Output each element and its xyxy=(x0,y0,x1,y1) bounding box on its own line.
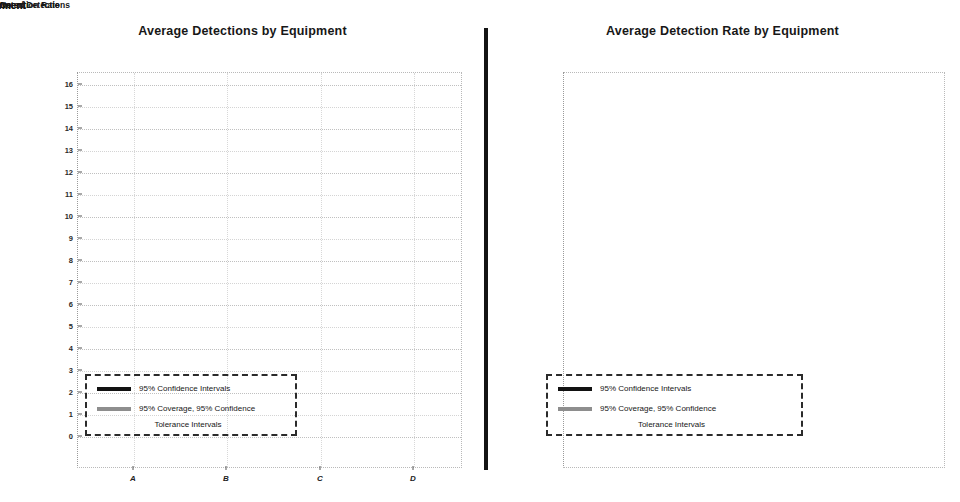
gridline-x xyxy=(321,73,322,467)
chart-title-right: Average Detection Rate by Equipment xyxy=(485,24,960,38)
legend-left: 95% Confidence Intervals 95% Coverage, 9… xyxy=(85,374,297,436)
legend-label-tolerance-line2: Tolerance Intervals xyxy=(87,420,289,429)
y-tick-label: 8 xyxy=(69,256,73,265)
legend-label-tolerance: 95% Coverage, 95% Confidence xyxy=(600,404,716,414)
x-tick-mark xyxy=(226,466,227,470)
y-tick-mark xyxy=(78,282,82,283)
y-tick-mark xyxy=(78,304,82,305)
legend-right: 95% Confidence Intervals 95% Coverage, 9… xyxy=(546,374,803,436)
gridline-y xyxy=(78,151,461,152)
gridline-y xyxy=(78,349,461,350)
y-tick-label: 15 xyxy=(65,102,73,111)
legend-label-tolerance: 95% Coverage, 95% Confidence xyxy=(139,404,255,414)
y-tick-label: 3 xyxy=(69,366,73,375)
y-tick-label: 14 xyxy=(65,124,73,133)
y-tick-mark xyxy=(78,326,82,327)
y-tick-label: 11 xyxy=(65,190,73,199)
legend-entry-tolerance: 95% Coverage, 95% Confidence xyxy=(87,404,289,414)
y-tick-mark xyxy=(78,238,82,239)
gridline-y xyxy=(78,217,461,218)
y-tick-mark xyxy=(78,106,82,107)
gridline-y xyxy=(78,173,461,174)
y-tick-label: 6 xyxy=(69,300,73,309)
y-tick-label: 9 xyxy=(69,234,73,243)
x-tick-mark xyxy=(320,466,321,470)
x-tick-label-d: D xyxy=(410,474,416,483)
y-tick-label: 1 xyxy=(69,410,73,419)
y-tick-mark xyxy=(78,414,82,415)
y-tick-mark xyxy=(78,172,82,173)
y-tick-label: 7 xyxy=(69,278,73,287)
y-tick-label: 12 xyxy=(65,168,73,177)
gridline-y xyxy=(78,85,461,86)
x-axis-title-right: Equipment xyxy=(0,0,26,11)
gridline-y xyxy=(78,107,461,108)
legend-swatch-tolerance-icon xyxy=(558,407,592,411)
y-tick-mark xyxy=(78,260,82,261)
gridline-y xyxy=(78,129,461,130)
gridline-y xyxy=(78,371,461,372)
y-tick-mark xyxy=(78,194,82,195)
y-tick-label: 16 xyxy=(65,80,73,89)
legend-label-tolerance-line2: Tolerance Intervals xyxy=(548,420,795,429)
y-tick-mark xyxy=(78,150,82,151)
legend-swatch-tolerance-icon xyxy=(97,407,131,411)
gridline-x xyxy=(414,73,415,467)
legend-swatch-confidence-icon xyxy=(97,387,131,391)
y-tick-mark xyxy=(78,348,82,349)
gridline-y xyxy=(78,195,461,196)
gridline-y xyxy=(78,305,461,306)
x-tick-label-c: C xyxy=(317,474,323,483)
y-tick-label: 5 xyxy=(69,322,73,331)
x-tick-mark xyxy=(133,466,134,470)
x-tick-mark xyxy=(413,466,414,470)
gridline-y xyxy=(78,239,461,240)
gridline-y xyxy=(78,261,461,262)
legend-entry-confidence: 95% Confidence Intervals xyxy=(548,384,795,394)
y-tick-mark xyxy=(78,84,82,85)
y-tick-mark xyxy=(78,370,82,371)
legend-entry-confidence: 95% Confidence Intervals xyxy=(87,384,289,394)
y-tick-mark xyxy=(78,216,82,217)
y-axis-left: 012345678910111213141516 xyxy=(77,72,78,466)
legend-label-confidence: 95% Confidence Intervals xyxy=(139,384,230,394)
figure-canvas: Average Detections by Equipment 01234567… xyxy=(0,0,960,502)
y-tick-label: 0 xyxy=(69,432,73,441)
y-tick-label: 13 xyxy=(65,146,73,155)
legend-entry-tolerance: 95% Coverage, 95% Confidence xyxy=(548,404,795,414)
gridline-y xyxy=(78,327,461,328)
legend-label-confidence: 95% Confidence Intervals xyxy=(600,384,691,394)
gridline-y xyxy=(78,437,461,438)
y-tick-label: 2 xyxy=(69,388,73,397)
panel-average-detections: Average Detections by Equipment 01234567… xyxy=(0,0,485,502)
chart-title-left: Average Detections by Equipment xyxy=(0,24,485,38)
y-tick-mark xyxy=(78,392,82,393)
y-tick-label: 10 xyxy=(65,212,73,221)
y-tick-mark xyxy=(78,436,82,437)
x-tick-label-b: B xyxy=(223,474,229,483)
y-tick-label: 4 xyxy=(69,344,73,353)
y-tick-mark xyxy=(78,128,82,129)
x-tick-label-a: A xyxy=(130,474,136,483)
legend-swatch-confidence-icon xyxy=(558,387,592,391)
gridline-y xyxy=(78,283,461,284)
